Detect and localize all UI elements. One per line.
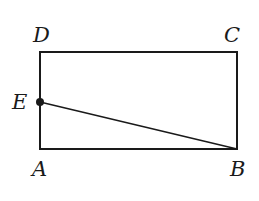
label-e: E [11, 90, 27, 114]
label-a: A [30, 157, 47, 181]
rectangle-diagram: D C E A B [0, 0, 259, 201]
label-c: C [224, 23, 240, 47]
label-b: B [229, 157, 245, 181]
point-e-dot [36, 98, 44, 106]
rectangle-abcd [40, 52, 237, 149]
label-d: D [32, 23, 50, 47]
segment-eb [40, 102, 237, 149]
